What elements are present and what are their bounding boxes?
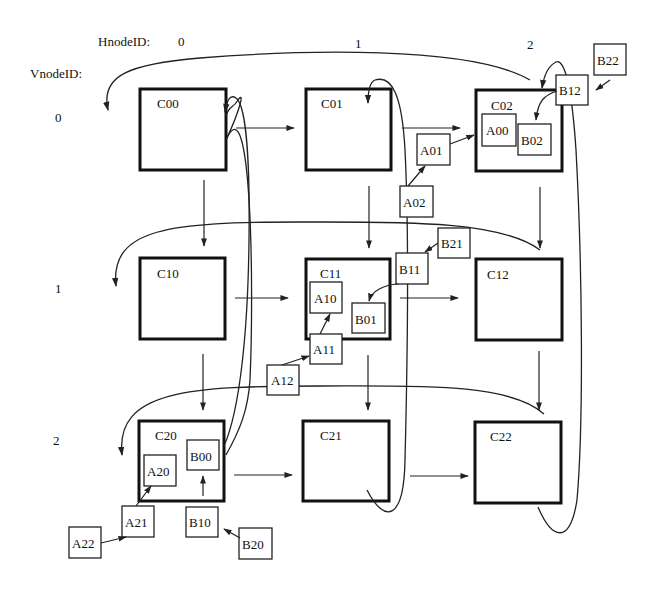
cell-c21 — [303, 421, 389, 501]
cell-c10 — [140, 258, 225, 339]
block-label-a01: A01 — [420, 143, 442, 158]
cell-label-c01: C01 — [321, 96, 343, 111]
arrow-a02-a01 — [408, 166, 425, 186]
cell-c01 — [306, 89, 391, 170]
wrap-col-0-main — [224, 97, 249, 446]
block-label-a00: A00 — [486, 123, 508, 138]
block-label-a22: A22 — [72, 536, 94, 551]
arrow-b20-b10 — [224, 529, 240, 538]
cell-c00 — [140, 89, 226, 170]
cell-label-c02: C02 — [491, 98, 513, 113]
block-label-a20: A20 — [147, 464, 169, 479]
arrow-b21-b11 — [425, 243, 438, 252]
block-label-b10: B10 — [189, 515, 211, 530]
column-id-0: 0 — [178, 34, 185, 49]
cell-c22 — [475, 422, 561, 503]
arrow-a22-a21 — [101, 537, 126, 543]
block-label-b00: B00 — [190, 449, 212, 464]
cell-label-c22: C22 — [490, 429, 512, 444]
cell-label-c00: C00 — [157, 96, 179, 111]
arrow-b22-b12 — [596, 80, 610, 90]
row-id-1: 1 — [55, 281, 62, 296]
block-label-a21: A21 — [125, 515, 147, 530]
block-label-b11: B11 — [399, 262, 420, 277]
arrow-a01-c02 — [450, 135, 474, 144]
block-label-b22: B22 — [597, 53, 619, 68]
block-label-a11: A11 — [313, 342, 335, 357]
hnode-label: HnodeID: — [98, 34, 150, 49]
block-label-b21: B21 — [441, 236, 463, 251]
block-label-a02: A02 — [403, 195, 425, 210]
row-id-0: 0 — [55, 110, 62, 125]
block-label-a12: A12 — [271, 373, 293, 388]
column-id-2: 2 — [527, 37, 534, 52]
column-id-1: 1 — [355, 36, 362, 51]
block-label-b20: B20 — [242, 537, 264, 552]
vnode-label: VnodeID: — [30, 66, 82, 81]
arrow-a12-a11 — [282, 356, 309, 365]
row-id-2: 2 — [53, 433, 60, 448]
block-label-b02: B02 — [521, 133, 543, 148]
cell-label-c20: C20 — [155, 428, 177, 443]
block-label-a10: A10 — [314, 291, 336, 306]
block-label-b12: B12 — [559, 83, 581, 98]
cell-label-c11: C11 — [320, 266, 341, 281]
cell-label-c10: C10 — [157, 266, 179, 281]
block-label-b01: B01 — [355, 312, 377, 327]
cell-label-c21: C21 — [320, 428, 342, 443]
processor-grid-diagram: HnodeID: 0 1 2 VnodeID: 0 1 2 C00 C01 C0… — [0, 0, 665, 593]
cell-label-c12: C12 — [487, 267, 509, 282]
